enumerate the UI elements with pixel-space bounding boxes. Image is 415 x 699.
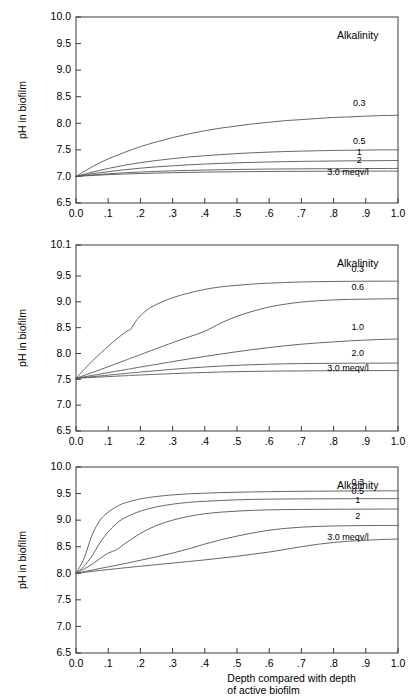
x-tick-label: .6	[265, 435, 274, 447]
legend-label-0.6: 0.6	[351, 282, 364, 292]
legend-label-0.3: 0.3	[353, 98, 366, 108]
x-tick-label: .7	[297, 435, 306, 447]
x-tick-label: .3	[168, 207, 177, 219]
legend-label-0.3: 0.3	[351, 264, 364, 274]
y-tick-label: 10.0	[51, 460, 72, 472]
legend-label-2: 2	[355, 511, 360, 521]
y-tick-label: 7.0	[56, 620, 71, 632]
x-tick-label: .6	[265, 657, 274, 669]
y-tick-label: 7.5	[56, 593, 71, 605]
x-tick-label: .9	[361, 435, 370, 447]
chart-svg-middle: 6.57.07.58.08.59.09.510.10.0.1.2.3.4.5.6…	[0, 228, 415, 456]
y-axis-title: pH in biofilm	[16, 531, 28, 589]
y-tick-label: 9.0	[56, 63, 71, 75]
y-tick-label: 8.0	[56, 567, 71, 579]
x-tick-label: .9	[361, 207, 370, 219]
y-tick-label: 9.5	[56, 269, 71, 281]
y-tick-label: 7.5	[56, 373, 71, 385]
chart-svg-top: 6.57.07.58.08.59.09.510.00.0.1.2.3.4.5.6…	[0, 0, 415, 228]
x-tick-label: .8	[329, 207, 338, 219]
figure-container: 6.57.07.58.08.59.09.510.00.0.1.2.3.4.5.6…	[0, 0, 415, 699]
x-tick-label: .1	[104, 435, 113, 447]
legend-title: Alkalinity	[337, 29, 379, 41]
x-tick-label: .2	[136, 207, 145, 219]
y-axis-title: pH in biofilm	[16, 309, 28, 367]
y-tick-label: 8.0	[56, 117, 71, 129]
chart-panel-top: 6.57.07.58.08.59.09.510.00.0.1.2.3.4.5.6…	[0, 0, 415, 228]
x-tick-label: 1.0	[391, 657, 406, 669]
chart-svg-bottom: 6.57.07.58.08.59.09.510.00.0.1.2.3.4.5.6…	[0, 456, 415, 699]
y-tick-label: 8.5	[56, 540, 71, 552]
y-tick-label: 8.5	[56, 321, 71, 333]
y-tick-label: 9.5	[56, 37, 71, 49]
legend-label-3.0: 3.0 meqv/l	[327, 363, 369, 373]
y-tick-label: 9.0	[56, 513, 71, 525]
y-tick-label: 10.0	[51, 10, 72, 22]
x-tick-label: 0.0	[69, 657, 84, 669]
y-tick-label: 7.5	[56, 143, 71, 155]
y-tick-label: 9.5	[56, 487, 71, 499]
y-tick-label: 8.0	[56, 347, 71, 359]
legend-label-3.0: 3.0 meqv/l	[327, 167, 369, 177]
chart-panel-bottom: 6.57.07.58.08.59.09.510.00.0.1.2.3.4.5.6…	[0, 456, 415, 699]
y-tick-label: 7.0	[56, 170, 71, 182]
legend-label-1.0: 1.0	[351, 322, 364, 332]
y-axis-title: pH in biofilm	[16, 81, 28, 139]
x-tick-label: .9	[361, 657, 370, 669]
y-tick-label: 9.0	[56, 295, 71, 307]
x-tick-label: .1	[104, 657, 113, 669]
y-tick-label: 8.5	[56, 90, 71, 102]
x-tick-label: .4	[200, 207, 209, 219]
x-tick-label: .8	[329, 435, 338, 447]
x-tick-label: .3	[168, 435, 177, 447]
x-tick-label: 1.0	[391, 435, 406, 447]
x-tick-label: .5	[233, 435, 242, 447]
legend-label-2.0: 2.0	[351, 348, 364, 358]
x-tick-label: 0.0	[69, 207, 84, 219]
x-tick-label: .2	[136, 657, 145, 669]
x-tick-label: .7	[297, 207, 306, 219]
legend-label-3.0: 3.0 meqv/l	[327, 532, 369, 542]
x-tick-label: .6	[265, 207, 274, 219]
x-tick-label: .1	[104, 207, 113, 219]
plot-frame	[76, 467, 398, 653]
x-tick-label: 1.0	[391, 207, 406, 219]
x-tick-label: .4	[200, 435, 209, 447]
legend-label-1: 1	[355, 495, 360, 505]
x-tick-label: .3	[168, 657, 177, 669]
x-tick-label: .5	[233, 657, 242, 669]
x-axis-title-line2: of active biofilm	[227, 684, 300, 696]
legend-label-2: 2	[357, 155, 362, 165]
x-tick-label: .5	[233, 207, 242, 219]
x-axis-title-line1: Depth compared with depth	[227, 672, 356, 684]
x-tick-label: .8	[329, 657, 338, 669]
plot-frame	[76, 245, 398, 431]
x-tick-label: .7	[297, 657, 306, 669]
legend-label-0.5: 0.5	[353, 136, 366, 146]
chart-panel-middle: 6.57.07.58.08.59.09.510.10.0.1.2.3.4.5.6…	[0, 228, 415, 456]
y-tick-label: 7.0	[56, 398, 71, 410]
y-tick-label: 10.1	[51, 238, 72, 250]
x-tick-label: 0.0	[69, 435, 84, 447]
x-tick-label: .4	[200, 657, 209, 669]
x-tick-label: .2	[136, 435, 145, 447]
